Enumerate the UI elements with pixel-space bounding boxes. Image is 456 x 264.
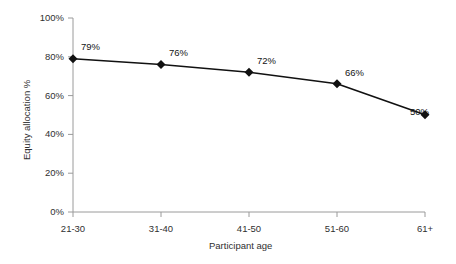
x-tick-label-51-60: 51-60 bbox=[307, 224, 367, 234]
data-point-label-2: 76% bbox=[169, 48, 188, 58]
y-axis-title: Equity allocation % bbox=[22, 80, 32, 160]
y-tick-label-0: 0% bbox=[30, 207, 64, 217]
y-tick-label-60: 60% bbox=[30, 91, 64, 101]
y-axis-ticks bbox=[68, 18, 73, 212]
data-point-label-4: 66% bbox=[345, 68, 364, 78]
y-tick-label-40: 40% bbox=[30, 129, 64, 139]
data-markers bbox=[69, 54, 430, 119]
data-point-label-3: 72% bbox=[257, 56, 276, 66]
y-tick-label-80: 80% bbox=[30, 52, 64, 62]
data-point-marker bbox=[245, 68, 254, 77]
x-tick-label-61plus: 61+ bbox=[395, 224, 455, 234]
data-point-marker bbox=[333, 79, 342, 88]
x-tick-label-31-40: 31-40 bbox=[131, 224, 191, 234]
x-tick-label-41-50: 41-50 bbox=[219, 224, 279, 234]
data-point-marker bbox=[157, 60, 166, 69]
data-point-label-5: 50% bbox=[410, 107, 429, 117]
data-point-marker bbox=[69, 54, 78, 63]
y-tick-label-20: 20% bbox=[30, 168, 64, 178]
x-tick-label-21-30: 21-30 bbox=[43, 224, 103, 234]
data-point-label-1: 79% bbox=[81, 42, 100, 52]
x-axis-title: Participant age bbox=[209, 241, 272, 251]
y-tick-label-100: 100% bbox=[30, 13, 64, 23]
data-line-series-1 bbox=[73, 59, 425, 115]
line-chart: 100% 80% 60% 40% 20% 0% 21-30 31-40 41-5… bbox=[0, 0, 456, 264]
x-axis-ticks bbox=[73, 212, 425, 217]
